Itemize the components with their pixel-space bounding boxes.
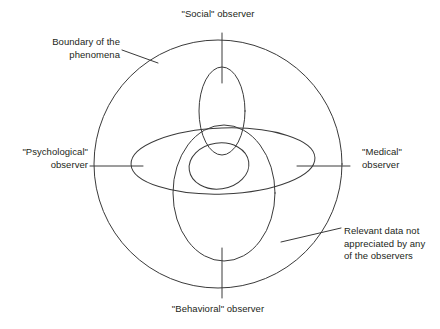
behavioral-observer-label: "Behavioral" observer bbox=[148, 303, 288, 316]
medical-observer-label: "Medical" observer bbox=[362, 146, 440, 171]
boundary-leader-line bbox=[122, 50, 158, 63]
boundary-of-phenomena-label: Boundary of the phenomena bbox=[8, 36, 120, 61]
social-observer-label: "Social" observer bbox=[148, 8, 288, 21]
relevant-data-leader-line bbox=[281, 228, 341, 242]
diagram-root: "Social" observer Boundary of the phenom… bbox=[0, 0, 440, 329]
psychological-observer-ellipse bbox=[130, 125, 316, 197]
relevant-data-label: Relevant data not appreciated by any of … bbox=[344, 225, 440, 263]
medical-observer-ellipse bbox=[186, 139, 252, 193]
psychological-observer-label: "Psychological" observer bbox=[0, 146, 88, 171]
